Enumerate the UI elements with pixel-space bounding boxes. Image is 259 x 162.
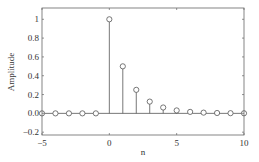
stem-marker xyxy=(66,111,71,116)
stem-marker xyxy=(147,99,152,104)
y-tick-label: −0.2 xyxy=(23,127,39,137)
x-axis-label: n xyxy=(141,147,146,157)
stem-marker xyxy=(188,109,193,114)
stem-marker xyxy=(214,110,219,115)
y-tick-label: 0.2 xyxy=(28,90,39,100)
stem-marker xyxy=(53,111,58,116)
stem-marker xyxy=(120,64,125,69)
x-tick-label: 5 xyxy=(174,138,179,148)
y-tick-label: 0.8 xyxy=(28,33,40,43)
axes-frame xyxy=(42,8,244,135)
stem-marker xyxy=(107,17,112,22)
stem-marker xyxy=(201,110,206,115)
axes: −50510−0.20.00.20.40.60.81 xyxy=(23,8,249,148)
y-axis-label: Amplitude xyxy=(6,53,16,92)
y-tick-label: 0.4 xyxy=(28,71,40,81)
stem-marker xyxy=(134,87,139,92)
stem-plot: −50510−0.20.00.20.40.60.81 n Amplitude xyxy=(0,0,259,162)
plot-area xyxy=(39,17,246,116)
stem-marker xyxy=(228,111,233,116)
y-tick-label: 0.6 xyxy=(28,52,40,62)
stem-marker xyxy=(80,111,85,116)
stem-marker xyxy=(93,111,98,116)
x-tick-label: −5 xyxy=(37,138,47,148)
x-tick-label: 10 xyxy=(240,138,250,148)
stem-marker xyxy=(161,105,166,110)
stem-marker xyxy=(174,108,179,113)
x-tick-label: 0 xyxy=(107,138,112,148)
y-tick-label: 1 xyxy=(35,14,40,24)
y-tick-label: 0.0 xyxy=(28,108,40,118)
